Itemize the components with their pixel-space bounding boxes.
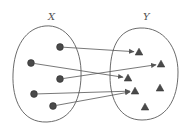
element-y2-triangle-icon bbox=[157, 60, 165, 67]
set-x-ellipse bbox=[13, 26, 81, 122]
arrow-x1-to-y1 bbox=[63, 47, 134, 51]
element-x3-dot-icon bbox=[57, 76, 64, 83]
function-diagram: X Y bbox=[0, 0, 189, 131]
element-y6-triangle-icon bbox=[141, 103, 149, 110]
set-x: X bbox=[13, 11, 81, 122]
element-x2-dot-icon bbox=[28, 60, 35, 67]
element-x5-dot-icon bbox=[50, 103, 57, 110]
set-x-elements bbox=[28, 44, 64, 110]
element-y1-triangle-icon bbox=[135, 48, 143, 55]
element-y5-triangle-icon bbox=[156, 84, 164, 91]
set-x-label: X bbox=[47, 11, 56, 22]
set-y-elements bbox=[124, 48, 165, 110]
arrow-x4-to-y4 bbox=[37, 91, 130, 94]
element-y3-triangle-icon bbox=[124, 74, 132, 81]
element-x1-dot-icon bbox=[57, 44, 64, 51]
element-y4-triangle-icon bbox=[131, 87, 139, 94]
arrow-x5-to-y4 bbox=[56, 92, 130, 105]
set-y-label: Y bbox=[143, 11, 151, 22]
mapping-arrows bbox=[34, 47, 156, 105]
set-y: Y bbox=[110, 11, 178, 120]
element-x4-dot-icon bbox=[31, 91, 38, 98]
